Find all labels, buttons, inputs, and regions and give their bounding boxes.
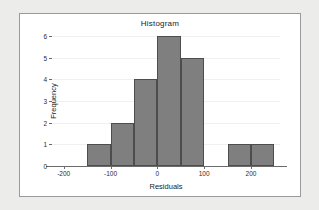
histogram-bar (157, 36, 180, 166)
chart-title: Histogram (20, 19, 300, 28)
x-axis-tick-label: 0 (156, 170, 160, 177)
histogram-bar (87, 144, 110, 166)
x-axis-tick (64, 166, 65, 169)
x-axis-tick (111, 166, 112, 169)
plot-area: Frequency 0123456-200-1000100200 (52, 36, 280, 166)
x-axis-tick (251, 166, 252, 169)
x-axis-tick-label: -100 (104, 170, 117, 177)
x-axis-tick (204, 166, 205, 169)
y-axis-tick (49, 166, 52, 167)
histogram-bars (52, 36, 280, 166)
y-axis-tick-label: 4 (43, 76, 47, 83)
y-axis-tick (49, 123, 52, 124)
y-axis-tick (49, 144, 52, 145)
chart-figure: Histogram Frequency 0123456-200-10001002… (19, 13, 301, 197)
y-axis-tick-label: 0 (43, 163, 47, 170)
histogram-bar (181, 58, 204, 166)
y-axis-tick-label: 5 (43, 54, 47, 61)
x-axis-tick-label: -200 (57, 170, 70, 177)
histogram-bar (111, 123, 134, 166)
y-axis-tick (49, 101, 52, 102)
y-axis-tick-label: 6 (43, 33, 47, 40)
x-axis-tick-label: 200 (246, 170, 257, 177)
y-axis-tick (49, 58, 52, 59)
x-axis-tick (157, 166, 158, 169)
y-axis-tick (49, 36, 52, 37)
y-axis-tick-label: 2 (43, 119, 47, 126)
x-axis-tick-label: 100 (199, 170, 210, 177)
x-axis-title: Residuals (52, 182, 280, 191)
histogram-bar (251, 144, 274, 166)
y-axis-tick-label: 3 (43, 98, 47, 105)
y-axis-tick-label: 1 (43, 141, 47, 148)
histogram-bar (134, 79, 157, 166)
y-axis-tick (49, 79, 52, 80)
histogram-bar (228, 144, 251, 166)
